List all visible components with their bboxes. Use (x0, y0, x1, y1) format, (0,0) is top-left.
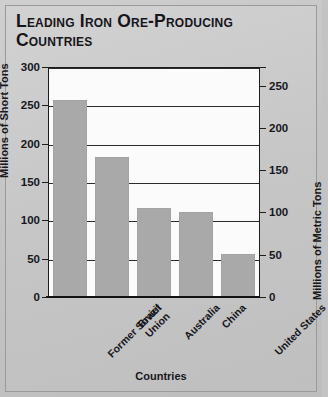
y-axis-tick-left (42, 144, 48, 145)
bar[interactable] (95, 157, 129, 298)
y-axis-label-right: 0 (269, 291, 275, 303)
chart-title-line2: Countries (16, 30, 92, 50)
y-axis-tick-left (42, 259, 48, 260)
y-axis-label-left: 250 (0, 99, 40, 111)
y-axis-label-right: 50 (269, 249, 282, 261)
y-axis-label-right: 100 (269, 206, 288, 218)
y-axis-label-left: 300 (0, 61, 40, 73)
y-axis-tick-right (259, 297, 266, 298)
y-axis-tick-right (259, 212, 266, 213)
y-axis-tick-right (259, 86, 266, 87)
y-axis-tick-right (259, 170, 266, 171)
y-axis-tick-left (42, 67, 48, 68)
y-axis-label-left: 200 (0, 138, 40, 150)
y-axis-label-left: 0 (0, 291, 40, 303)
x-axis-line (46, 296, 260, 298)
y-axis-tick-right (259, 255, 266, 256)
y-axis-label-right: 150 (269, 164, 288, 176)
chart-title-line1: Leading Iron Ore-Producing (16, 11, 233, 31)
y-axis-tick-left (42, 220, 48, 221)
bar[interactable] (221, 254, 255, 298)
y-axis-tick-left (42, 182, 48, 183)
y-axis-label-right: 250 (269, 80, 288, 92)
y-axis-tick-right (259, 128, 266, 129)
chart-title: Leading Iron Ore-Producing Countries (16, 12, 296, 50)
bar[interactable] (179, 212, 213, 298)
y-axis-tick-right (259, 67, 266, 68)
plot-area (48, 67, 260, 298)
y-axis-label-left: 50 (0, 253, 40, 265)
y-axis-tick-left (42, 105, 48, 106)
bar[interactable] (53, 100, 87, 298)
x-axis-title: Countries (0, 370, 322, 382)
y-axis-title-right: Millions of Metric Tons (311, 182, 323, 300)
y-axis-tick-left (42, 297, 48, 298)
gridline (49, 68, 259, 69)
y-axis-label-right: 200 (269, 122, 288, 134)
y-axis-title-left: Millions of Short Tons (0, 63, 10, 178)
y-axis-label-left: 150 (0, 176, 40, 188)
bar[interactable] (137, 208, 171, 298)
y-axis-label-left: 100 (0, 214, 40, 226)
